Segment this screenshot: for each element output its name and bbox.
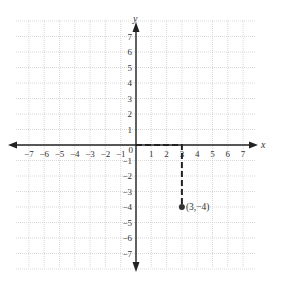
x-axis-arrow-right-icon [249,142,258,149]
y-tick-label: 3 [128,94,133,104]
x-tick-label: 7 [241,149,246,159]
x-tick-label: −6 [39,149,49,159]
y-tick-label: −1 [122,156,132,166]
x-tick-label: 0 [129,145,134,155]
x-tick-label: −5 [55,149,65,159]
y-tick-label: 1 [128,125,133,135]
y-tick-label: 4 [128,78,133,88]
y-tick-label: −6 [122,233,132,243]
y-tick-label: 6 [128,47,133,57]
point-label: (3,−4) [186,202,210,213]
x-tick-label: −2 [101,149,111,159]
x-axis-label: x [260,139,266,150]
x-tick-label: 2 [164,149,169,159]
y-tick-label: −2 [122,171,132,181]
y-tick-label: −4 [122,202,132,212]
x-tick-label: −7 [24,149,34,159]
y-tick-label: −3 [122,187,132,197]
axes [8,22,258,272]
x-tick-label: 4 [195,149,200,159]
coordinate-plane: −7−6−5−4−3−2−101234567−7−6−5−4−3−2−11234… [0,0,282,281]
x-tick-label: −4 [70,149,80,159]
x-tick-label: 6 [226,149,231,159]
y-axis-arrow-down-icon [133,262,140,272]
plot-svg: −7−6−5−4−3−2−101234567−7−6−5−4−3−2−11234… [0,0,282,281]
y-tick-label: −5 [122,218,132,228]
x-tick-label: −3 [85,149,95,159]
x-tick-label: 5 [210,149,215,159]
y-tick-label: 7 [128,32,133,42]
y-axis-label: y [132,13,138,24]
data-point [179,204,185,210]
x-tick-label: 1 [149,149,154,159]
y-tick-label: −7 [122,249,132,259]
y-tick-label: 5 [128,63,133,73]
x-axis-arrow-left-icon [8,142,17,149]
y-tick-label: 2 [128,109,133,119]
